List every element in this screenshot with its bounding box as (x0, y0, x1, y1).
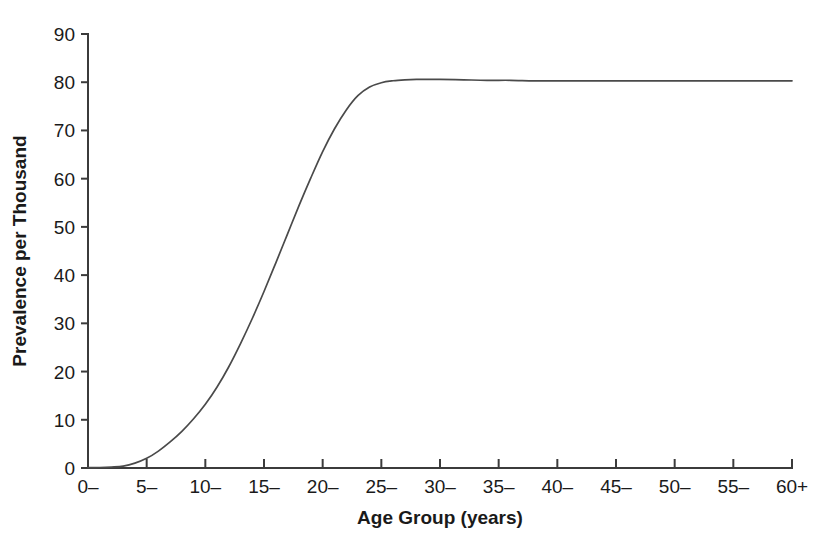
x-tick-label: 5– (136, 476, 158, 497)
x-tick-label: 45– (600, 476, 632, 497)
y-axis-title: Prevalence per Thousand (9, 135, 30, 366)
y-tick-label: 90 (54, 24, 75, 45)
x-tick-label: 40– (541, 476, 573, 497)
x-tick-label: 60+ (776, 476, 808, 497)
chart-canvas: 0102030405060708090 0–5–10–15–20–25–30–3… (0, 0, 822, 552)
y-tick-label: 30 (54, 313, 75, 334)
y-axis: 0102030405060708090 (54, 24, 89, 479)
y-tick-label: 50 (54, 217, 75, 238)
x-axis-ticks: 0–5–10–15–20–25–30–35–40–45–50–55–60+ (77, 459, 808, 497)
x-tick-label: 35– (483, 476, 515, 497)
x-tick-label: 50– (659, 476, 691, 497)
y-tick-label: 80 (54, 72, 75, 93)
x-axis: 0–5–10–15–20–25–30–35–40–45–50–55–60+ (77, 459, 808, 497)
y-tick-label: 20 (54, 362, 75, 383)
y-tick-label: 60 (54, 169, 75, 190)
y-tick-label: 0 (64, 458, 75, 479)
y-tick-label: 70 (54, 120, 75, 141)
plot-series-group (88, 79, 792, 467)
x-tick-label: 25– (365, 476, 397, 497)
x-tick-label: 55– (717, 476, 749, 497)
x-tick-label: 20– (307, 476, 339, 497)
y-tick-label: 10 (54, 410, 75, 431)
x-tick-label: 30– (424, 476, 456, 497)
x-tick-label: 15– (248, 476, 280, 497)
prevalence-line (88, 79, 792, 467)
y-tick-label: 40 (54, 265, 75, 286)
x-tick-label: 0– (77, 476, 99, 497)
y-axis-ticks: 0102030405060708090 (54, 24, 89, 479)
x-axis-title: Age Group (years) (357, 507, 523, 528)
prevalence-by-age-chart: 0102030405060708090 0–5–10–15–20–25–30–3… (0, 0, 822, 552)
x-tick-label: 10– (189, 476, 221, 497)
